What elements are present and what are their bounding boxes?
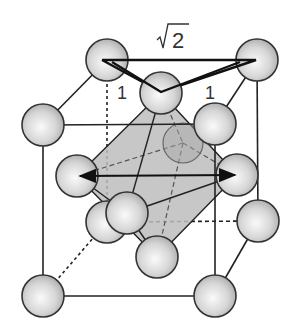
svg-text:2: 2 (172, 28, 184, 53)
sqrt2-label: 2 (157, 24, 189, 53)
atom-front-face-center (106, 192, 148, 234)
double-arrow-icon (80, 175, 235, 176)
atom-bottom-front-right (194, 275, 236, 317)
atom-right-back-bottom (237, 200, 279, 242)
atom-top-front-right (194, 103, 236, 145)
atom-bottom-front-left (22, 275, 64, 317)
edge-label-left: 1 (117, 83, 127, 103)
fcc-octahedral-diagram: 2 1 1 (0, 0, 294, 334)
atom-top-front-left (22, 104, 64, 146)
edge-label-right: 1 (205, 83, 215, 103)
atom-bottom-face-center (136, 236, 178, 278)
